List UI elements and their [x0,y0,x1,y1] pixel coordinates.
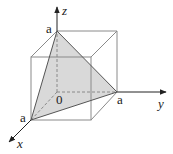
z-intercept-label: a [46,21,52,36]
y-intercept-label: a [117,92,123,107]
x-intercept-label: a [20,110,26,125]
diagram-canvas: z y x a a a 0 [0,0,173,154]
y-axis-label: y [156,96,164,111]
origin-label: 0 [56,92,63,107]
z-axis-label: z [61,3,67,18]
x-axis-label: x [16,136,23,151]
